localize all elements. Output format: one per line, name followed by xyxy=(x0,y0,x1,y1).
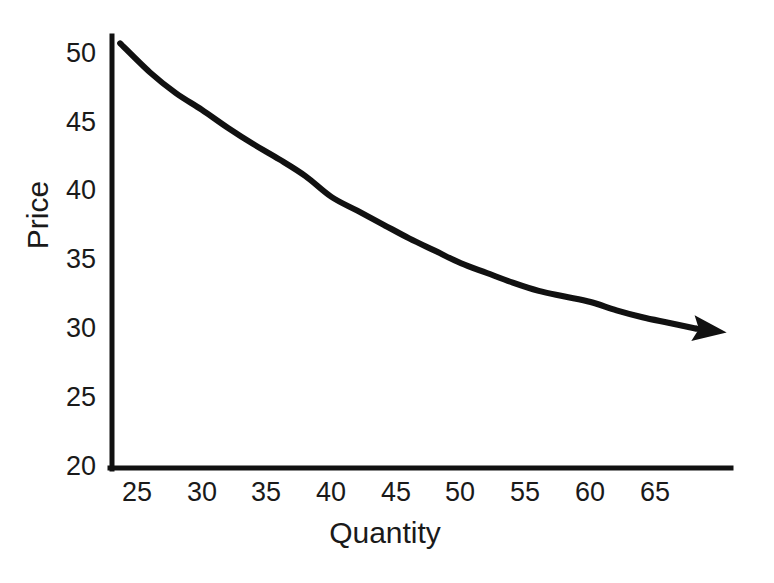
y-tick-label-25: 25 xyxy=(40,384,96,411)
x-tick-label-65: 65 xyxy=(640,479,670,506)
y-axis-title: Price xyxy=(23,181,53,249)
y-tick-label-50: 50 xyxy=(40,40,96,67)
x-tick-label-40: 40 xyxy=(316,479,346,506)
y-tick-label-30: 30 xyxy=(40,315,96,342)
x-tick-label-55: 55 xyxy=(510,479,540,506)
y-tick-label-20: 20 xyxy=(40,453,96,480)
x-tick-label-30: 30 xyxy=(187,479,217,506)
x-tick-label-60: 60 xyxy=(575,479,605,506)
x-tick-label-25: 25 xyxy=(122,479,152,506)
chart-figure: 50 45 40 35 30 25 20 25 30 35 40 45 50 5… xyxy=(0,0,774,583)
x-axis-title: Quantity xyxy=(329,518,441,548)
demand-curve-line xyxy=(120,43,697,328)
x-tick-label-45: 45 xyxy=(381,479,411,506)
y-tick-label-45: 45 xyxy=(40,109,96,136)
y-tick-label-35: 35 xyxy=(40,246,96,273)
x-tick-label-50: 50 xyxy=(445,479,475,506)
x-tick-label-35: 35 xyxy=(251,479,281,506)
